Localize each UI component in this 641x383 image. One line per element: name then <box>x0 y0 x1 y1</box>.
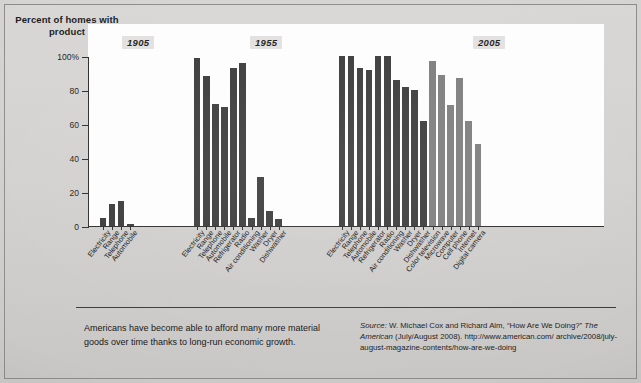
bar-2005-microwave <box>438 75 445 226</box>
y-tick-label-20: 20 <box>70 188 79 198</box>
era-badge-1905: 1905 <box>122 36 154 49</box>
bar-1955-automobile <box>221 107 228 226</box>
bar-2005-electricity <box>339 56 346 226</box>
footer-divider <box>76 307 616 308</box>
bar-2005-computer <box>447 105 454 226</box>
y-tick-label-60: 60 <box>70 120 79 130</box>
figure-caption: Americans have become able to afford man… <box>84 322 339 349</box>
bar-2005-cell-phone <box>456 78 463 226</box>
source-line-1: W. Michael Cox and Richard Alm, “How Are… <box>387 321 582 330</box>
plot-area: 020406080100% <box>88 57 604 227</box>
y-tick-label-80: 80 <box>70 86 79 96</box>
bar-1905-range <box>109 204 116 226</box>
y-tick-0 <box>82 227 89 228</box>
era-badge-1955: 1955 <box>250 36 282 49</box>
plot-upper-white <box>88 24 604 58</box>
bar-1955-radio <box>239 63 246 226</box>
bar-1955-dishwasher <box>275 219 282 226</box>
bar-2005-telephone <box>357 68 364 226</box>
bar-2005-dishwasher <box>420 121 427 226</box>
bar-2005-automobile <box>366 70 373 226</box>
bar-1905-electricity <box>100 218 107 227</box>
bar-2005-dryer <box>411 90 418 226</box>
figure-page: Percent of homes with product 0204060801… <box>0 0 641 383</box>
bar-2005-internet <box>465 121 472 226</box>
bar-2005-range <box>348 56 355 226</box>
y-tick-label-40: 40 <box>70 154 79 164</box>
y-tick-80 <box>82 91 89 92</box>
bar-1955-range <box>203 76 210 226</box>
y-tick-label-0: 0 <box>74 222 79 232</box>
bar-1955-telephone <box>212 104 219 226</box>
source-line-2: (July/August 2008). http://www.american.… <box>393 332 554 341</box>
y-tick-100 <box>82 57 89 58</box>
bar-series <box>89 57 604 226</box>
bar-1905-telephone <box>118 201 125 227</box>
era-badge-2005: 2005 <box>473 36 505 49</box>
source-label: Source: <box>360 321 387 330</box>
bar-1955-air-conditioning <box>248 218 255 227</box>
figure-source: Source: W. Michael Cox and Richard Alm, … <box>360 320 622 353</box>
bar-1955-washer <box>257 177 264 226</box>
bar-2005-washer <box>402 87 409 226</box>
bar-2005-color-television <box>429 61 436 226</box>
bar-2005-digital-camera <box>475 144 482 226</box>
bar-2005-refrigerator <box>375 56 382 226</box>
x-axis-category-labels: ElectricityRangeTelephoneAutomobileElect… <box>88 229 608 299</box>
y-tick-60 <box>82 125 89 126</box>
y-tick-label-100: 100% <box>57 52 79 62</box>
bar-1955-dryer <box>266 211 273 226</box>
bar-1955-electricity <box>194 58 201 226</box>
y-tick-40 <box>82 159 89 160</box>
bar-2005-radio <box>384 56 391 226</box>
bar-2005-air-conditioning <box>393 80 400 226</box>
y-tick-20 <box>82 193 89 194</box>
bar-1955-refrigerator <box>230 68 237 226</box>
